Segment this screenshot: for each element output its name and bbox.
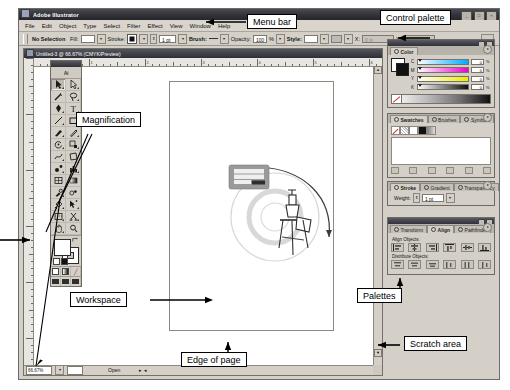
callout-menu-bar: Menu bar [247, 14, 297, 29]
callout-leaders [0, 0, 510, 390]
callout-scratch-area: Scratch area [404, 336, 467, 351]
callout-palettes: Palettes [357, 288, 402, 303]
callout-edge-of-page: Edge of page [181, 352, 247, 367]
callout-control-palette: Control palette [380, 10, 451, 25]
callout-workspace: Workspace [70, 292, 127, 307]
callout-magnification: Magnification [76, 112, 141, 127]
